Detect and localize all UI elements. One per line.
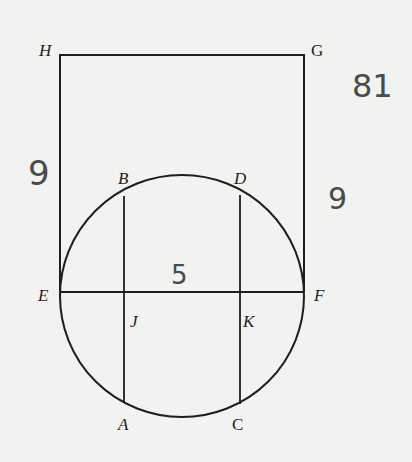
handwritten-area: 81 [352,70,393,102]
point-label-C: C [232,416,243,433]
handwritten-diameter: 5 [171,262,188,288]
point-label-F: F [314,287,324,304]
point-label-A: A [118,416,128,433]
circle [60,175,304,417]
square-outline [60,55,304,292]
handwritten-side-left: 9 [28,156,50,190]
point-label-H: H [39,42,51,59]
handwritten-side-right: 9 [328,184,347,214]
point-label-B: B [118,170,128,187]
point-label-D: D [234,170,246,187]
point-label-J: J [130,313,138,330]
point-label-G: G [311,42,323,59]
point-label-E: E [38,287,48,304]
point-label-K: K [243,313,254,330]
geometry-figure [0,0,412,462]
